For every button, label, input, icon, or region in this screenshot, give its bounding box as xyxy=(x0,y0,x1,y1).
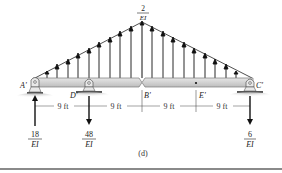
peak-load-label: 2 EI xyxy=(137,4,149,22)
dimension-db: 9 ft xyxy=(111,102,123,111)
beam xyxy=(33,78,253,87)
svg-text:EI: EI xyxy=(30,140,39,149)
svg-text:48: 48 xyxy=(85,130,93,139)
conjugate-beam-diagram: 2 EI A' D' B' E' C' xyxy=(0,0,282,173)
svg-text:EI: EI xyxy=(245,140,254,149)
reaction-d: 48 EI xyxy=(82,96,96,149)
svg-text:2: 2 xyxy=(141,4,145,13)
distributed-load xyxy=(35,21,252,78)
label-a: A' xyxy=(19,81,27,90)
svg-text:EI: EI xyxy=(139,14,147,22)
label-c: C' xyxy=(256,81,263,90)
svg-text:18: 18 xyxy=(31,130,39,139)
reaction-a: 18 EI xyxy=(28,95,42,149)
svg-text:EI: EI xyxy=(84,140,93,149)
point-e-marker xyxy=(195,82,197,84)
label-e: E' xyxy=(198,91,206,100)
dimension-ad: 9 ft xyxy=(58,102,70,111)
label-b: B' xyxy=(144,91,151,100)
separator-line xyxy=(0,168,282,170)
dimension-ec: 9 ft xyxy=(217,102,229,111)
label-d: D' xyxy=(69,91,78,100)
figure-caption: (d) xyxy=(138,149,148,158)
dimension-be: 9 ft xyxy=(164,102,176,111)
dimension-line: 9 ft 9 ft 9 ft 9 ft xyxy=(35,100,250,111)
reaction-c: 6 EI xyxy=(244,96,256,149)
svg-text:6: 6 xyxy=(248,130,252,139)
